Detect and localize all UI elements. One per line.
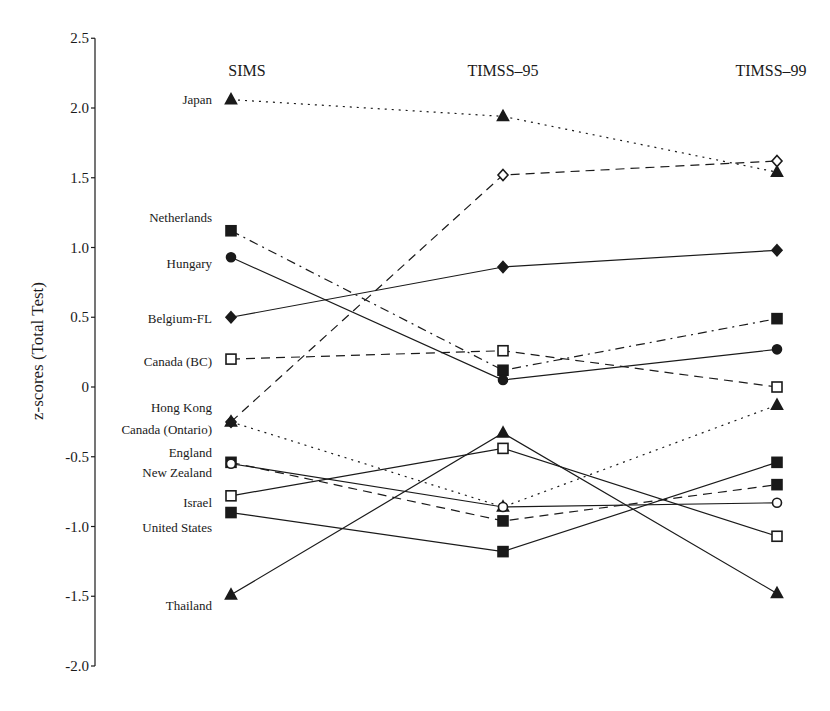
- square-marker-icon: [226, 354, 236, 364]
- square-marker-icon: [226, 226, 236, 236]
- series-line: [231, 257, 777, 380]
- square-marker-icon: [772, 382, 782, 392]
- country-label: England: [169, 445, 213, 460]
- country-label: New Zealand: [142, 465, 212, 480]
- country-label: Netherlands: [149, 210, 212, 225]
- country-label: Japan: [182, 92, 212, 107]
- country-label: Israel: [183, 495, 212, 510]
- series-line: [231, 464, 777, 507]
- square-marker-icon: [226, 491, 236, 501]
- circle-marker-icon: [499, 376, 508, 385]
- series-line: [231, 405, 777, 507]
- circle-marker-icon: [499, 502, 508, 511]
- country-labels: JapanNetherlandsHungaryBelgium-FLCanada …: [121, 92, 212, 613]
- circle-marker-icon: [773, 498, 782, 507]
- column-headers: SIMSTIMSS–95TIMSS–99: [228, 62, 806, 79]
- triangle-marker-icon: [772, 399, 783, 409]
- square-marker-icon: [498, 516, 508, 526]
- series-line: [231, 250, 777, 317]
- y-tick-label: 0.5: [70, 309, 89, 325]
- square-marker-icon: [772, 480, 782, 490]
- series-line: [231, 433, 777, 595]
- triangle-marker-icon: [498, 427, 509, 437]
- y-axis: 2.52.01.51.00.50-0.5-1.0-1.5-2.0: [65, 30, 95, 674]
- triangle-marker-icon: [772, 587, 783, 597]
- country-label: Hong Kong: [151, 400, 213, 415]
- country-label: Belgium-FL: [148, 311, 212, 326]
- y-tick-label: -2.0: [65, 658, 89, 674]
- triangle-marker-icon: [498, 110, 509, 120]
- square-marker-icon: [498, 346, 508, 356]
- y-tick-label: 2.5: [70, 30, 89, 46]
- country-label: Canada (Ontario): [121, 422, 212, 437]
- circle-marker-icon: [773, 345, 782, 354]
- y-tick-label: 0: [82, 379, 90, 395]
- chart-canvas: 2.52.01.51.00.50-0.5-1.0-1.5-2.0 z-score…: [0, 0, 830, 711]
- diamond-marker-icon: [226, 312, 236, 323]
- square-marker-icon: [772, 531, 782, 541]
- series-line: [231, 100, 777, 173]
- y-tick-label: 1.5: [70, 170, 89, 186]
- circle-marker-icon: [227, 459, 236, 468]
- square-marker-icon: [772, 314, 782, 324]
- series-markers: [226, 94, 783, 599]
- circle-marker-icon: [227, 253, 236, 262]
- diamond-marker-icon: [772, 245, 782, 256]
- square-marker-icon: [498, 547, 508, 557]
- column-header: SIMS: [228, 62, 265, 79]
- y-tick-label: -0.5: [65, 449, 89, 465]
- y-axis-title: z-scores (Total Test): [28, 282, 47, 420]
- country-label: Hungary: [167, 256, 213, 271]
- triangle-marker-icon: [226, 94, 237, 104]
- y-tick-label: 2.0: [70, 100, 89, 116]
- country-label: Canada (BC): [144, 354, 212, 369]
- country-label: Thailand: [166, 598, 213, 613]
- diamond-marker-icon: [498, 262, 508, 273]
- square-marker-icon: [226, 508, 236, 518]
- y-tick-label: -1.5: [65, 588, 89, 604]
- country-label: United States: [142, 520, 212, 535]
- triangle-marker-icon: [226, 589, 237, 599]
- column-header: TIMSS–99: [735, 62, 806, 79]
- square-marker-icon: [498, 365, 508, 375]
- y-tick-label: 1.0: [70, 240, 89, 256]
- square-marker-icon: [498, 443, 508, 453]
- z-score-line-chart: 2.52.01.51.00.50-0.5-1.0-1.5-2.0 z-score…: [0, 0, 830, 711]
- y-tick-label: -1.0: [65, 519, 89, 535]
- column-header: TIMSS–95: [467, 62, 538, 79]
- diamond-marker-icon: [772, 156, 782, 167]
- square-marker-icon: [772, 457, 782, 467]
